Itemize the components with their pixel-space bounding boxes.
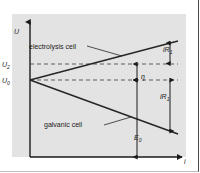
y-tick-label-u0-subscript: 0 [7, 80, 10, 86]
plot-graphics [0, 0, 200, 173]
ir-top-symbol: iR [163, 46, 170, 53]
electrolysis-label-leader [87, 46, 122, 56]
ir-top-annotation: iR1 [163, 46, 172, 55]
eta-annotation: η [141, 73, 145, 80]
ir-top-subscript: 1 [170, 49, 173, 55]
y-tick-label-u0: U0 [2, 77, 10, 86]
y-tick-label-u2: U2 [2, 61, 10, 70]
ir-bottom-symbol: iR [160, 93, 167, 100]
x-axis-label: i [184, 158, 186, 165]
electrolysis-cell-label: electrolysis cell [29, 43, 76, 50]
polarization-diagram-figure: U i U2 U0 electrolysis cell galvanic cel… [0, 0, 200, 173]
ir-bottom-annotation: iR1 [160, 93, 169, 102]
galvanic-label-leader [104, 117, 131, 125]
e0-annotation: E0 [134, 134, 141, 143]
y-axis-label: U [14, 28, 19, 35]
ir-bottom-subscript: 1 [167, 96, 170, 102]
e0-subscript: 0 [139, 137, 142, 143]
galvanic-cell-label: galvanic cell [44, 121, 82, 128]
y-tick-label-u2-subscript: 2 [7, 64, 10, 70]
